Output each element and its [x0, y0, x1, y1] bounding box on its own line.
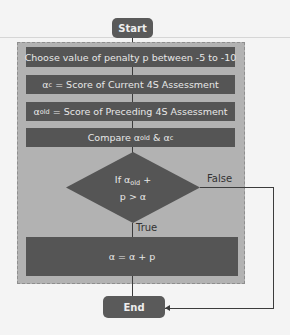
- subscript-c: c: [170, 134, 174, 142]
- subscript-old: old: [130, 179, 140, 187]
- decision-plus: +: [140, 174, 151, 185]
- connector-step1-to-step2: [132, 67, 133, 75]
- decision-if: If: [115, 174, 124, 185]
- step-choose-penalty: Choose value of penalty p between -5 to …: [26, 47, 235, 67]
- compare-prefix: Compare: [88, 132, 134, 143]
- connector-true-branch: [132, 223, 133, 237]
- step-preceding-score: αold = Score of Preceding 4S Assessment: [26, 102, 235, 121]
- end-label: End: [123, 302, 144, 313]
- decision-line2: p > α: [96, 190, 170, 204]
- connector-step3-to-step4: [132, 121, 133, 128]
- false-label: False: [207, 173, 232, 184]
- start-label: Start: [118, 23, 146, 34]
- decision-text: If αold + p > α: [96, 173, 170, 204]
- connector-step2-to-step3: [132, 94, 133, 102]
- end-terminal: End: [103, 296, 165, 318]
- step-current-score: αc = Score of Current 4S Assessment: [26, 75, 235, 94]
- connector-false-to-end: [165, 308, 274, 309]
- step-preceding-score-text: = Score of Preceding 4S Assessment: [50, 106, 228, 117]
- step-update-alpha-text: α = α + p: [109, 251, 156, 262]
- start-terminal: Start: [112, 18, 153, 38]
- subscript-old: old: [40, 108, 50, 116]
- step-update-alpha: α = α + p: [26, 237, 238, 276]
- true-label: True: [136, 222, 157, 233]
- connector-action-to-end: [132, 276, 133, 296]
- arrowhead-false-to-end: [165, 305, 170, 311]
- connector-false-horizontal: [200, 187, 273, 188]
- step-compare: Compare αold & αc: [26, 128, 235, 147]
- decision-line1: If αold +: [96, 173, 170, 190]
- step-current-score-text: = Score of Current 4S Assessment: [52, 79, 219, 90]
- compare-mid: &: [150, 132, 163, 143]
- step-choose-penalty-text: Choose value of penalty p between -5 to …: [25, 52, 237, 63]
- connector-false-vertical: [273, 187, 274, 309]
- subscript-old: old: [140, 134, 150, 142]
